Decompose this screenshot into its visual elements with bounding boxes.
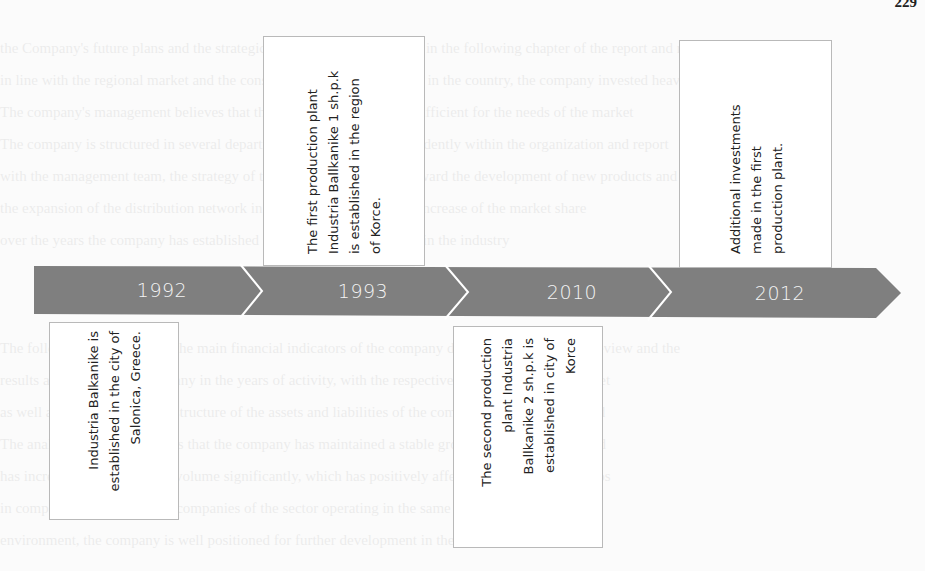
timeline-year-2012: 2012: [755, 282, 805, 304]
event-box-1993: The first production plant Industria Bal…: [263, 36, 425, 266]
timeline-year-1993: 1993: [338, 280, 388, 302]
event-box-1992: Industria Balkanike is established in th…: [49, 322, 179, 520]
timeline-year-1992: 1992: [137, 279, 187, 301]
event-box-2012: Additional investments made in the first…: [679, 40, 832, 268]
timeline-year-2010: 2010: [547, 281, 597, 303]
event-text-2010: The second production plant Industria Ba…: [476, 338, 581, 536]
event-box-2010: The second production plant Industria Ba…: [453, 326, 603, 548]
event-text-1993: The first production plant Industria Bal…: [302, 48, 386, 254]
event-text-2012: Additional investments made in the first…: [724, 74, 787, 254]
event-text-1992: Industria Balkanike is established in th…: [83, 331, 146, 511]
